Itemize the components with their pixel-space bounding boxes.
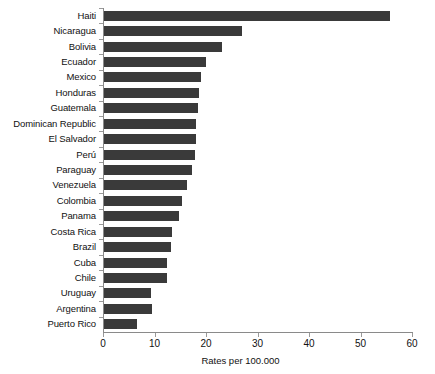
y-axis-tick (99, 239, 103, 240)
bar-row: Mexico (0, 70, 435, 84)
bar (104, 242, 171, 252)
y-axis-tick (99, 317, 103, 318)
x-axis-tick (155, 333, 156, 337)
bar (104, 150, 195, 160)
bar-row: Uruguay (0, 286, 435, 300)
category-label: Bolivia (69, 41, 96, 52)
category-label: Guatemala (50, 102, 96, 113)
y-axis-tick (99, 147, 103, 148)
y-axis-tick (99, 85, 103, 86)
bar (104, 304, 152, 314)
bar (104, 196, 182, 206)
bar-row: Honduras (0, 86, 435, 100)
category-label: Cuba (74, 257, 96, 268)
x-axis-tick (361, 333, 362, 337)
bar-row: Puerto Rico (0, 317, 435, 331)
bar (104, 72, 201, 82)
y-axis-tick (99, 255, 103, 256)
bar (104, 103, 198, 113)
bar-row: Guatemala (0, 101, 435, 115)
bar-row: Nicaragua (0, 24, 435, 38)
category-label: Chile (75, 272, 96, 283)
y-axis-tick (99, 162, 103, 163)
bar-row: Dominican Republic (0, 117, 435, 131)
x-axis-tick-label: 50 (346, 338, 376, 350)
y-axis-tick (99, 39, 103, 40)
bar (104, 165, 192, 175)
y-axis-tick (99, 270, 103, 271)
bar (104, 227, 172, 237)
bar-row: Chile (0, 271, 435, 285)
bar-row: Venezuela (0, 178, 435, 192)
category-label: Mexico (67, 71, 97, 82)
x-axis-tick-label: 10 (140, 338, 170, 350)
bar (104, 211, 179, 221)
y-axis-tick (99, 116, 103, 117)
bar-row: El Salvador (0, 132, 435, 146)
bar (104, 319, 137, 329)
category-label: Honduras (56, 87, 96, 98)
x-axis-tick-label: 40 (294, 338, 324, 350)
category-label: Haiti (77, 10, 96, 21)
x-axis-tick (206, 333, 207, 337)
bar (104, 119, 196, 129)
y-axis-tick (99, 301, 103, 302)
y-axis-tick (99, 70, 103, 71)
bar-row: Ecuador (0, 55, 435, 69)
bar-row: Brazil (0, 240, 435, 254)
category-label: Puerto Rico (47, 318, 96, 329)
y-axis-tick (99, 178, 103, 179)
bar-row: Paraguay (0, 163, 435, 177)
y-axis-tick (99, 8, 103, 9)
y-axis-tick (99, 101, 103, 102)
bar (104, 42, 222, 52)
category-label: Perú (76, 149, 96, 160)
bar (104, 88, 199, 98)
y-axis-tick (99, 209, 103, 210)
x-axis-tick-label: 20 (191, 338, 221, 350)
category-label: Colombia (57, 195, 96, 206)
category-label: Ecuador (61, 56, 96, 67)
bar-row: Bolivia (0, 40, 435, 54)
bar-row: Perú (0, 148, 435, 162)
bar-row: Argentina (0, 302, 435, 316)
bar (104, 258, 167, 268)
bar (104, 134, 196, 144)
bar-row: Panama (0, 209, 435, 223)
bar-row: Costa Rica (0, 225, 435, 239)
x-axis-tick (103, 333, 104, 337)
category-label: El Salvador (49, 133, 96, 144)
category-label: Brazil (73, 241, 96, 252)
category-label: Uruguay (61, 287, 96, 298)
bar-chart: HaitiNicaraguaBoliviaEcuadorMexicoHondur… (0, 0, 435, 374)
bar-row: Haiti (0, 9, 435, 23)
bar (104, 57, 206, 67)
x-axis-title-label: Rates per 100.000 (201, 355, 279, 366)
y-axis-tick (99, 224, 103, 225)
bar-rows: HaitiNicaraguaBoliviaEcuadorMexicoHondur… (0, 8, 435, 332)
y-axis-tick (99, 23, 103, 24)
bar (104, 26, 242, 36)
y-axis-tick (99, 54, 103, 55)
bar-row: Colombia (0, 194, 435, 208)
bar (104, 288, 151, 298)
x-axis-tick-label: 0 (88, 338, 118, 350)
y-axis-tick (99, 131, 103, 132)
bar (104, 180, 187, 190)
y-axis-tick (99, 286, 103, 287)
category-label: Venezuela (53, 179, 96, 190)
y-axis-tick (99, 193, 103, 194)
category-label: Dominican Republic (13, 118, 96, 129)
x-axis-title: Rates per 100.000 (0, 355, 435, 366)
bar (104, 11, 390, 21)
x-axis-tick (258, 333, 259, 337)
category-label: Nicaragua (54, 25, 96, 36)
x-axis-tick-label: 60 (397, 338, 427, 350)
bar (104, 273, 167, 283)
x-axis-tick-label: 30 (243, 338, 273, 350)
category-label: Costa Rica (51, 226, 96, 237)
x-axis-tick (309, 333, 310, 337)
x-axis-tick (412, 333, 413, 337)
category-label: Panama (61, 210, 96, 221)
category-label: Argentina (56, 303, 96, 314)
